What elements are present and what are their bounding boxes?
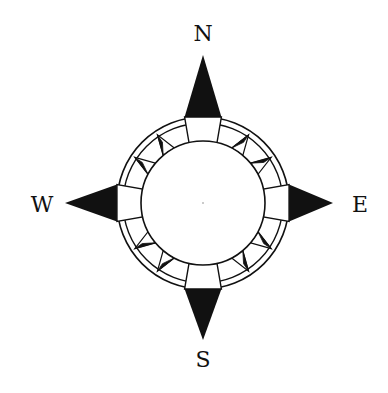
north-label: N: [193, 23, 212, 45]
north-arm-base: [185, 117, 222, 143]
south-arm-point: [185, 289, 222, 340]
east-label: E: [352, 194, 368, 216]
compass-rose-graphic: [0, 0, 388, 393]
west-label: W: [31, 194, 54, 216]
west-arm-point: [65, 185, 117, 222]
east-arm-base: [263, 185, 289, 222]
center-dot: [202, 202, 204, 204]
north-arm-point: [185, 55, 222, 117]
south-label: S: [195, 349, 210, 371]
east-arm-point: [289, 185, 333, 222]
west-arm-base: [117, 185, 143, 222]
compass-rose: N S W E: [0, 0, 388, 393]
south-arm-base: [185, 263, 222, 289]
